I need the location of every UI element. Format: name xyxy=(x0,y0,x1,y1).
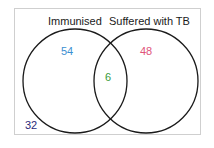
circle-immunised xyxy=(23,29,127,133)
label-immunised: Immunised xyxy=(48,15,102,27)
value-intersection: 6 xyxy=(105,71,111,83)
value-tb-only: 48 xyxy=(140,45,152,57)
value-immunised-only: 54 xyxy=(61,45,73,57)
value-outside: 32 xyxy=(25,119,37,131)
label-suffered-tb: Suffered with TB xyxy=(109,15,190,27)
